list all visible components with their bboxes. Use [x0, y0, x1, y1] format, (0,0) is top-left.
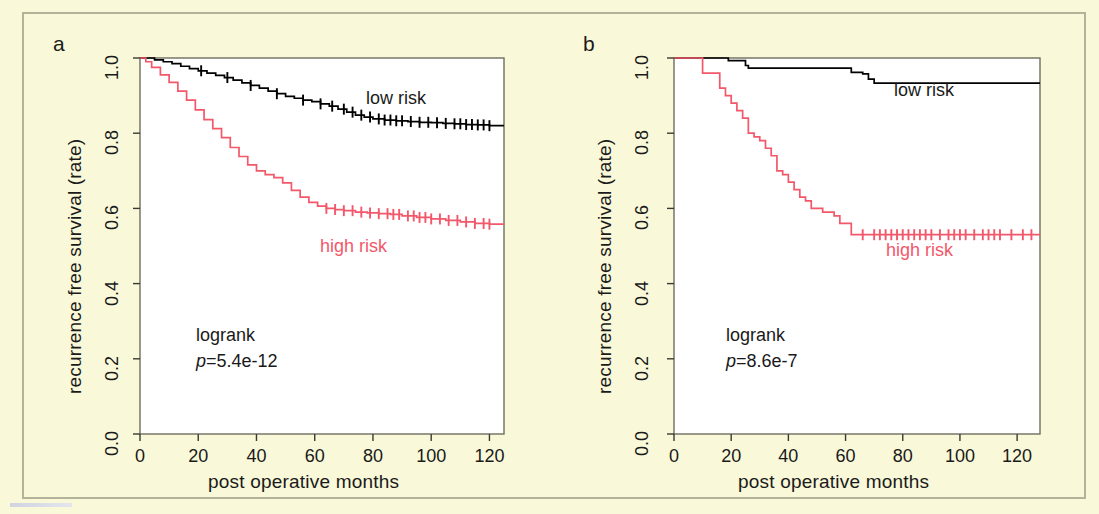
panel-b-ytick-2: 0.4: [632, 281, 653, 306]
panel-a-test-name: logrank: [196, 322, 278, 348]
panel-b-xtick-4: 80: [877, 446, 929, 467]
panel-a-p-value: p=5.4e-12: [196, 348, 278, 374]
panel-b-plot: [556, 12, 1084, 499]
panel-b-ytick-4: 0.8: [632, 130, 653, 155]
panel-a-ytick-2: 0.4: [102, 281, 123, 306]
panel-b-xtick-0: 0: [648, 446, 700, 467]
panel-b-xtick-6: 120: [991, 446, 1043, 467]
panel-a-stats: logrank p=5.4e-12: [196, 322, 278, 374]
panel-b-test-name: logrank: [726, 322, 798, 348]
panel-a-plot: [24, 12, 554, 499]
figure-canvas: a recurrence free survival (rate) post o…: [0, 0, 1099, 514]
panel-a-low-risk-label: low risk: [366, 88, 426, 109]
panel-a-xtick-4: 80: [347, 446, 399, 467]
panel-b-high-risk-label: high risk: [886, 240, 953, 261]
panel-a-ytick-5: 1.0: [102, 55, 123, 80]
panel-b: b recurrence free survival (rate) post o…: [556, 12, 1084, 499]
panel-b-xtick-1: 20: [705, 446, 757, 467]
panel-a-xtick-5: 100: [405, 446, 457, 467]
panel-a-xtick-6: 120: [463, 446, 515, 467]
panel-a-ytick-1: 0.2: [102, 356, 123, 381]
panel-a: a recurrence free survival (rate) post o…: [24, 12, 554, 499]
panel-b-ytick-5: 1.0: [632, 55, 653, 80]
scan-artifact: [10, 503, 72, 507]
panel-b-xtick-3: 60: [820, 446, 872, 467]
panel-b-xtick-2: 40: [762, 446, 814, 467]
panel-b-xtick-5: 100: [934, 446, 986, 467]
panel-b-p-value: p=8.6e-7: [726, 348, 798, 374]
panel-a-xtick-1: 20: [172, 446, 224, 467]
panel-a-xtick-2: 40: [230, 446, 282, 467]
panel-b-stats: logrank p=8.6e-7: [726, 322, 798, 374]
panel-a-ytick-4: 0.8: [102, 130, 123, 155]
panel-a-xtick-0: 0: [114, 446, 166, 467]
panel-a-high-risk-label: high risk: [320, 236, 387, 257]
panel-b-ytick-1: 0.2: [632, 356, 653, 381]
panel-b-ytick-3: 0.6: [632, 205, 653, 230]
panel-b-low-risk-label: low risk: [894, 80, 954, 101]
panel-a-xtick-3: 60: [289, 446, 341, 467]
panel-a-ytick-3: 0.6: [102, 205, 123, 230]
